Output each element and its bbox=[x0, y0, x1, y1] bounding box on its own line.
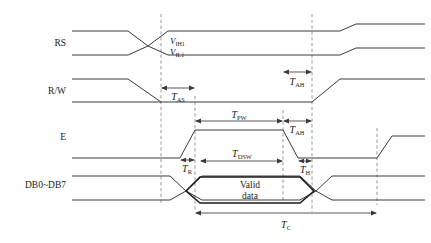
signal-trace-rw-low bbox=[72, 79, 425, 102]
valid-data-label-line1: Valid bbox=[240, 180, 260, 190]
timing-label-th: TH bbox=[300, 164, 311, 176]
arrowhead-right-tas bbox=[189, 86, 195, 91]
arrowhead-left-tr bbox=[180, 158, 186, 163]
signal-trace-rw-high bbox=[72, 79, 161, 102]
signal-rw: R/W bbox=[48, 79, 425, 102]
signal-label-db: DB0~DB7 bbox=[25, 180, 66, 190]
dimension-tr: TR bbox=[180, 158, 195, 176]
arrowhead-right-tpw bbox=[277, 119, 283, 124]
dimension-tah-e: TAH bbox=[283, 119, 312, 137]
arrowhead-left-tdsw bbox=[200, 159, 206, 164]
arrowhead-right-th bbox=[306, 159, 312, 164]
dashed-guides bbox=[161, 14, 377, 212]
dimension-th: TH bbox=[298, 159, 312, 177]
timing-label-tah-e: TAH bbox=[290, 124, 305, 136]
timing-label-tpw: TPW bbox=[231, 109, 247, 121]
arrowhead-left-tah-e bbox=[283, 119, 289, 124]
arrowhead-right-tdsw bbox=[277, 159, 283, 164]
signal-trace-rs-lower bbox=[72, 46, 425, 55]
signal-label-rw: R/W bbox=[48, 86, 66, 96]
signal-trace-rs-upper bbox=[72, 24, 425, 46]
signal-rs: RS VIH1 VIL1 bbox=[54, 24, 425, 58]
timing-label-tdsw: TDSW bbox=[232, 148, 253, 160]
arrowhead-left-tpw bbox=[195, 119, 201, 124]
signal-label-e: E bbox=[60, 132, 66, 142]
arrowhead-left-tah-rs bbox=[283, 70, 289, 75]
dimension-tdsw: TDSW bbox=[200, 148, 283, 163]
timing-diagram-canvas: RS VIH1 VIL1 TAH R/W bbox=[0, 0, 431, 243]
voltage-label-vih1: VIH1 bbox=[170, 36, 185, 47]
timing-diagram: RS VIH1 VIL1 TAH R/W bbox=[0, 0, 431, 243]
timing-label-tah-rs: TAH bbox=[290, 76, 305, 88]
signal-label-rs: RS bbox=[54, 38, 66, 48]
voltage-label-vil1: VIL1 bbox=[170, 47, 184, 58]
signal-db: DB0~DB7 Valid data bbox=[25, 176, 425, 203]
arrowhead-right-tc bbox=[371, 211, 377, 216]
timing-label-tc: TC bbox=[281, 219, 291, 231]
valid-data-label-line2: data bbox=[242, 191, 259, 201]
timing-label-tas: TAS bbox=[171, 91, 185, 103]
arrowhead-left-tc bbox=[195, 211, 201, 216]
arrowhead-left-tas bbox=[161, 86, 167, 91]
dimension-tc: TC bbox=[195, 211, 377, 232]
arrowhead-left-th bbox=[298, 159, 304, 164]
arrowhead-right-tah-e bbox=[306, 119, 312, 124]
arrowhead-right-tr bbox=[189, 158, 195, 163]
dimension-tpw: TPW bbox=[195, 109, 283, 123]
dimension-tah-rs: TAH bbox=[283, 70, 312, 89]
timing-label-tr: TR bbox=[182, 163, 193, 175]
arrowhead-right-tah-rs bbox=[306, 70, 312, 75]
dimension-tas: TAS bbox=[161, 86, 195, 104]
